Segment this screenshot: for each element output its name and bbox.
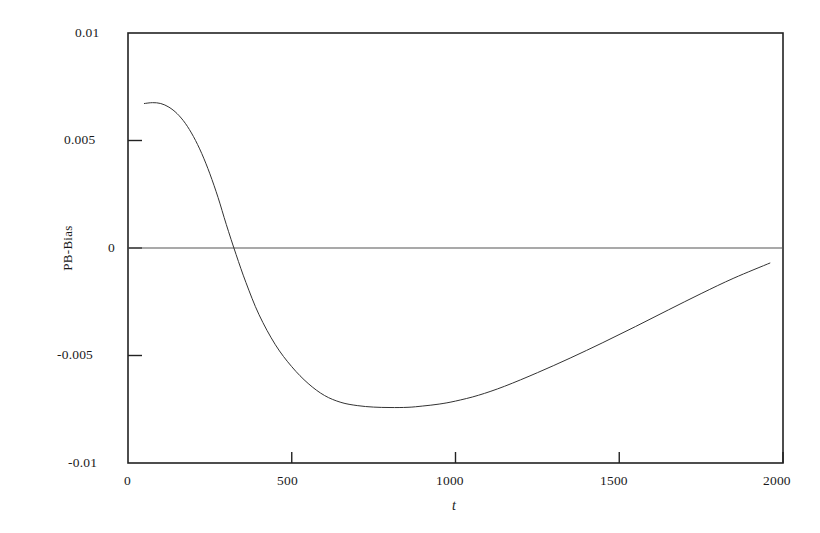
y-tick-label-0: 0.01: [75, 25, 99, 41]
y-axis-label: PB-Bias: [60, 225, 75, 270]
chart-figure: PB-Bias 0.01 0.005 0 -0.005 -0.01 0 500 …: [0, 0, 820, 533]
x-axis-label: t: [452, 498, 456, 514]
y-tick-label-2: 0: [108, 240, 115, 256]
x-tick-label-1: 500: [277, 473, 298, 489]
y-tick-label-1: 0.005: [64, 132, 95, 148]
x-tick-label-4: 2000: [763, 473, 791, 489]
x-tick-label-0: 0: [124, 473, 131, 489]
x-axis-ticks: [292, 452, 783, 463]
plot-canvas: PB-Bias: [0, 0, 820, 533]
y-tick-label-3: -0.005: [57, 347, 93, 363]
y-tick-label-4: -0.01: [68, 455, 97, 471]
x-tick-label-2: 1000: [436, 473, 464, 489]
x-tick-label-3: 1500: [600, 473, 628, 489]
data-series-line: [144, 103, 770, 408]
